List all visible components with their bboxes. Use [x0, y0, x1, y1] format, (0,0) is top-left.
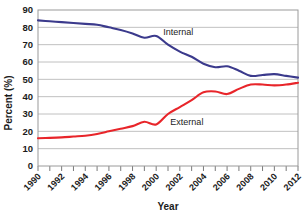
y-tick-label: 0 [28, 160, 33, 171]
y-tick-label: 20 [22, 126, 33, 137]
series-label-internal: Internal [163, 27, 193, 37]
y-tick-label: 10 [22, 143, 33, 154]
x-axis-label: Year [157, 201, 178, 212]
y-tick-label: 50 [22, 74, 33, 85]
line-chart: 0102030405060708090 19901992199419961998… [0, 0, 308, 219]
chart-container: 0102030405060708090 19901992199419961998… [0, 0, 308, 219]
series-label-external: External [170, 117, 203, 127]
y-axis-label: Percent (%) [3, 75, 14, 130]
y-tick-label: 80 [22, 22, 33, 33]
y-tick-label: 70 [22, 39, 33, 50]
y-tick-label: 60 [22, 56, 33, 67]
y-tick-label: 30 [22, 108, 33, 119]
y-tick-label: 90 [22, 4, 33, 15]
y-tick-label: 40 [22, 91, 33, 102]
